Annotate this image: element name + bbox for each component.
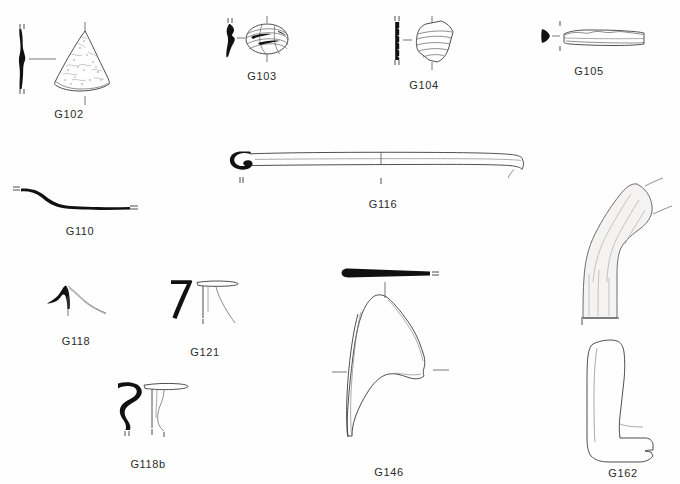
figure-label-g121: G121	[190, 346, 219, 358]
g102-section-profile	[19, 29, 25, 89]
g102-body-outline	[55, 31, 110, 91]
figure-label-g162: G162	[608, 467, 637, 479]
figure-g105	[534, 16, 654, 58]
figure-label-g118b: G118b	[130, 458, 165, 470]
figure-g116	[225, 143, 535, 188]
g116-tip	[522, 158, 524, 169]
g116-loop-head	[230, 151, 253, 169]
figure-g104	[386, 12, 466, 74]
g103-axis-marks	[228, 18, 232, 23]
illustration-plate: G102	[0, 0, 680, 484]
figure-g110	[8, 180, 148, 220]
g118b-rim-flange	[144, 383, 188, 389]
figure-label-g105: G105	[574, 65, 603, 77]
g116-tail-curve	[508, 169, 514, 178]
g118-section-profile	[47, 286, 70, 310]
g162-lower-outline	[587, 340, 653, 462]
figure-g162	[553, 178, 678, 463]
figure-g146	[325, 262, 455, 462]
g146-body-outline	[347, 295, 425, 436]
g105-section-profile	[541, 29, 550, 43]
g146-bar-ticks	[432, 272, 439, 275]
g103-band-shadows	[251, 31, 286, 45]
g102-surface-texture	[63, 36, 104, 81]
figure-label-g118: G118	[62, 335, 91, 347]
g104-body-outline	[416, 21, 453, 62]
g118b-section-profile	[118, 382, 142, 430]
g105-lower-edge-line	[566, 41, 644, 43]
g162-upper-outline	[583, 184, 652, 318]
g104-section-profile	[395, 22, 399, 60]
g118b-axis-marks	[125, 429, 164, 437]
g110-section-profile	[21, 188, 130, 209]
g116-axis-marks	[240, 177, 381, 184]
figure-g103	[218, 14, 304, 64]
figure-label-g104: G104	[409, 79, 438, 91]
g116-shaft-lower	[251, 164, 522, 169]
g105-notched-edge	[565, 31, 643, 35]
figure-label-g116: G116	[369, 198, 398, 210]
g116-shaft-upper	[250, 152, 522, 158]
g121-rim-body-right	[216, 286, 235, 323]
g121-section-profile	[171, 280, 192, 319]
figure-label-g102: G102	[54, 108, 83, 120]
figure-label-g103: G103	[247, 70, 276, 82]
g118-rim-curve	[68, 286, 106, 313]
figure-label-g110: G110	[66, 225, 95, 237]
figure-g118	[44, 282, 114, 327]
figure-g102	[8, 10, 128, 105]
figure-g121	[166, 277, 246, 333]
figure-label-g146: G146	[374, 466, 403, 478]
g118b-rim-wall-right	[158, 390, 164, 431]
g103-section-profile	[226, 24, 234, 57]
g121-rim-top	[197, 281, 238, 286]
figure-g118b	[106, 378, 201, 446]
g146-section-bar	[342, 269, 430, 278]
